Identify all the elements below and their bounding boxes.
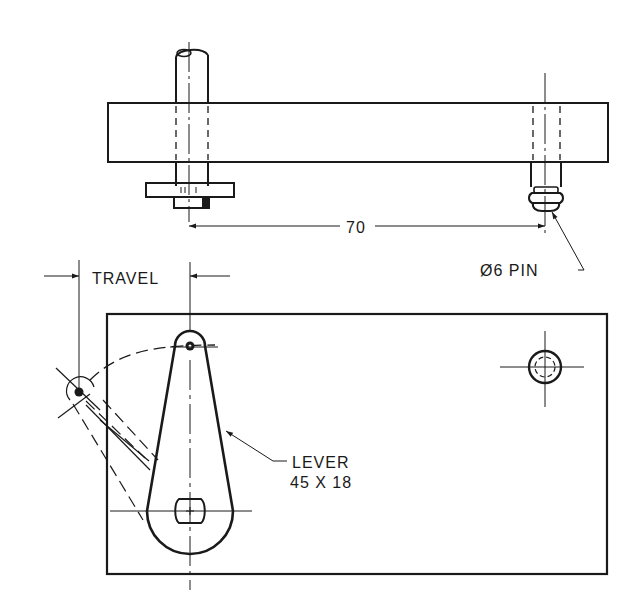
pin-label: Ø6 PIN: [480, 262, 538, 279]
pin-leader: [552, 212, 584, 270]
front-view: [44, 260, 607, 590]
washer: [146, 183, 234, 197]
pin-hole: [500, 331, 584, 407]
travel-arc: [90, 345, 215, 380]
swung-pivot-hole: [75, 388, 84, 397]
shaft: [176, 50, 208, 187]
hidden-lines-shaft: [176, 106, 208, 160]
plate: [107, 314, 607, 574]
lever-label-line1: LEVER: [292, 454, 349, 471]
travel-label: TRAVEL: [92, 270, 159, 287]
lever-leader: [226, 431, 287, 461]
lever-label-line2: 45 X 18: [290, 474, 352, 491]
engineering-drawing: 70 Ø6 PIN: [0, 0, 642, 608]
pin: [529, 73, 563, 236]
dimension-70-label: 70: [346, 219, 366, 236]
